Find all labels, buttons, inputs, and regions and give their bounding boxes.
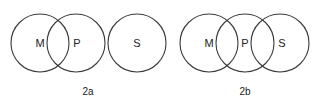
label-m: M bbox=[204, 37, 213, 49]
label-s: S bbox=[278, 37, 285, 49]
venn-diagrams: M P S 2a M P S 2b bbox=[0, 0, 321, 107]
diagram-2a: M P S 2a bbox=[11, 14, 166, 97]
diagram-2b: M P S 2b bbox=[180, 14, 309, 97]
label-m: M bbox=[35, 37, 44, 49]
label-s: S bbox=[133, 37, 140, 49]
caption-2a: 2a bbox=[82, 86, 94, 97]
label-p: P bbox=[73, 37, 80, 49]
caption-2b: 2b bbox=[239, 86, 251, 97]
label-p: P bbox=[241, 37, 248, 49]
